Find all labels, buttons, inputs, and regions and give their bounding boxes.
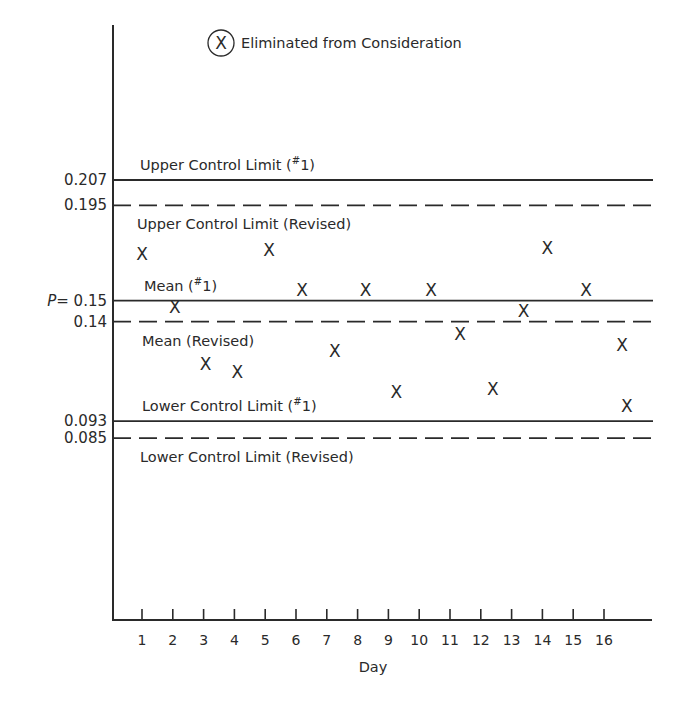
- x-tick-label: 4: [230, 632, 239, 648]
- data-point-x-marker: X: [232, 362, 244, 382]
- x-ticks: 12345678910111213141516: [138, 609, 613, 648]
- data-point-x-marker: X: [391, 382, 403, 402]
- y-tick-label: 0.085: [64, 429, 107, 447]
- data-points: XXXXXXXXXXXXXXXXX: [136, 238, 633, 417]
- data-point-x-marker: X: [621, 396, 633, 416]
- data-point-x-marker: X: [425, 280, 437, 300]
- reference-line-label: Mean (Revised): [142, 333, 254, 349]
- reference-line-label: Upper Control Limit (Revised): [137, 216, 351, 232]
- reference-line-label: Lower Control Limit (#1): [142, 396, 317, 414]
- data-point-x-marker: X: [542, 238, 554, 258]
- x-tick-label: 8: [353, 632, 362, 648]
- data-point-x-marker: X: [263, 240, 275, 260]
- data-point-x-marker: X: [329, 341, 341, 361]
- x-tick-label: 3: [199, 632, 208, 648]
- x-tick-label: 13: [503, 632, 521, 648]
- data-point-x-marker: X: [169, 297, 181, 317]
- x-tick-label: 5: [261, 632, 270, 648]
- data-point-x-marker: X: [296, 280, 308, 300]
- reference-line-label: Mean (#1): [144, 276, 217, 294]
- data-point-x-marker: X: [487, 379, 499, 399]
- legend-label: Eliminated from Consideration: [241, 35, 462, 51]
- x-tick-label: 1: [138, 632, 147, 648]
- data-point-x-marker: X: [454, 324, 466, 344]
- legend: X Eliminated from Consideration: [208, 30, 462, 56]
- y-tick-label: P= 0.15: [47, 292, 107, 310]
- y-tick-label: 0.195: [64, 196, 107, 214]
- x-tick-label: 6: [292, 632, 301, 648]
- x-tick-label: 15: [564, 632, 582, 648]
- control-chart: X Eliminated from Consideration 12345678…: [0, 0, 691, 707]
- x-tick-label: 7: [322, 632, 331, 648]
- reference-line-label: Lower Control Limit (Revised): [140, 449, 354, 465]
- x-tick-label: 14: [533, 632, 551, 648]
- x-tick-label: 9: [384, 632, 393, 648]
- x-tick-label: 10: [410, 632, 428, 648]
- x-tick-label: 12: [472, 632, 490, 648]
- x-axis-label: Day: [359, 659, 388, 675]
- reference-line-label: Upper Control Limit (#1): [140, 155, 315, 173]
- y-tick-label: 0.207: [64, 171, 107, 189]
- y-tick-label: 0.093: [64, 412, 107, 430]
- legend-symbol: X: [215, 33, 227, 53]
- reference-lines: Upper Control Limit (#1)Upper Control Li…: [113, 155, 653, 465]
- y-tick-label: 0.14: [74, 313, 107, 331]
- y-tick-labels: 0.2070.195P= 0.150.140.0930.085: [47, 171, 107, 447]
- data-point-x-marker: X: [136, 244, 148, 264]
- data-point-x-marker: X: [360, 280, 372, 300]
- data-point-x-marker: X: [616, 335, 628, 355]
- data-point-x-marker: X: [518, 301, 530, 321]
- x-tick-label: 2: [168, 632, 177, 648]
- data-point-x-marker: X: [580, 280, 592, 300]
- data-point-x-marker: X: [200, 354, 212, 374]
- x-tick-label: 16: [595, 632, 613, 648]
- x-tick-label: 11: [441, 632, 459, 648]
